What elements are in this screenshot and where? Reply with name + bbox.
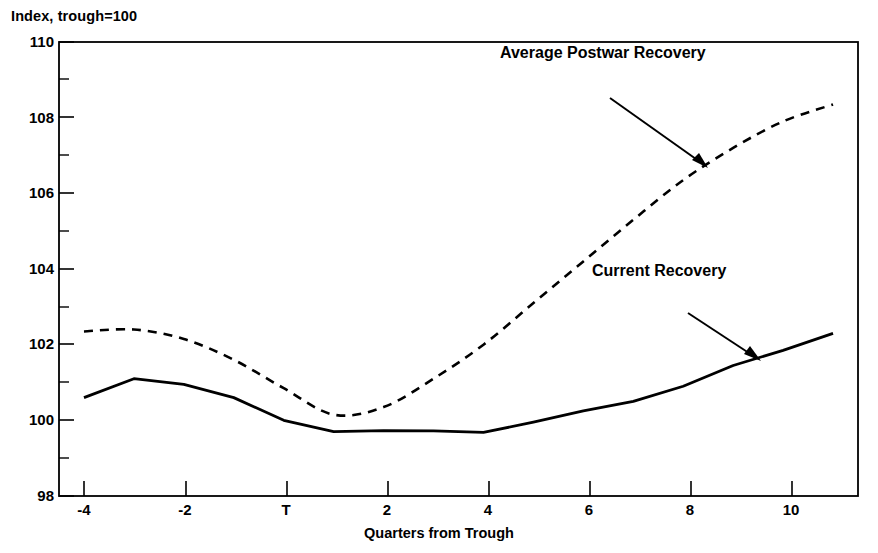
annotation-current-recovery: Current Recovery bbox=[592, 262, 726, 280]
y-tick-label-110: 110 bbox=[10, 33, 54, 50]
plot-frame bbox=[59, 42, 858, 496]
plot-area bbox=[0, 0, 878, 553]
y-tick-label-102: 102 bbox=[10, 335, 54, 352]
x-tick-label-minus2: -2 bbox=[165, 501, 205, 518]
y-tick-label-106: 106 bbox=[10, 184, 54, 201]
annotation-average-postwar-recovery: Average Postwar Recovery bbox=[500, 44, 706, 62]
annotation-arrow-average bbox=[610, 98, 708, 168]
y-tick-label-104: 104 bbox=[10, 260, 54, 277]
x-axis-title: Quarters from Trough bbox=[0, 525, 878, 541]
annotation-arrow-current bbox=[688, 313, 761, 361]
series-line-current-recovery bbox=[84, 333, 833, 432]
arrow-shaft-current bbox=[688, 313, 755, 357]
series-line-average-postwar-recovery bbox=[84, 104, 833, 415]
x-tick-label-trough: T bbox=[266, 501, 306, 518]
chart-figure: Index, trough=100 110 108 106 104 102 10… bbox=[0, 0, 878, 553]
x-tick-label-8: 8 bbox=[670, 501, 710, 518]
x-tick-label-4: 4 bbox=[468, 501, 508, 518]
x-tick-label-10: 10 bbox=[771, 501, 811, 518]
x-tick-label-2: 2 bbox=[367, 501, 407, 518]
x-axis-ticks bbox=[84, 481, 792, 496]
arrow-head-average bbox=[692, 153, 708, 168]
x-tick-label-6: 6 bbox=[569, 501, 609, 518]
y-axis-ticks bbox=[59, 42, 74, 496]
arrow-shaft-average bbox=[610, 98, 703, 164]
y-axis-units-note: Index, trough=100 bbox=[11, 8, 137, 24]
y-tick-label-98: 98 bbox=[10, 487, 54, 504]
y-tick-label-100: 100 bbox=[10, 411, 54, 428]
y-tick-label-108: 108 bbox=[10, 109, 54, 126]
x-tick-label-minus4: -4 bbox=[64, 501, 104, 518]
